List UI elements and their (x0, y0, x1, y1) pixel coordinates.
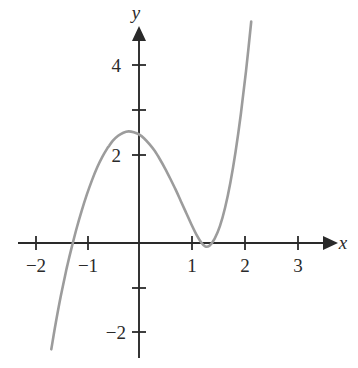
plot-background (0, 0, 358, 368)
y-tick-label-4: 4 (112, 55, 122, 76)
y-axis-label: y (130, 2, 141, 23)
cubic-function-plot: x y −2 −1 1 2 3 (0, 0, 358, 368)
y-tick-label-2: 2 (112, 145, 122, 166)
x-tick-label-3: 3 (293, 255, 303, 276)
y-tick-label-neg2: −2 (106, 322, 126, 343)
x-tick-label-2: 2 (240, 255, 250, 276)
x-tick-label-1: 1 (187, 255, 197, 276)
x-tick-label-neg1: −1 (78, 255, 98, 276)
x-tick-label-neg2: −2 (26, 255, 46, 276)
graph-figure: x y −2 −1 1 2 3 (0, 0, 358, 368)
x-axis-label: x (338, 232, 348, 253)
